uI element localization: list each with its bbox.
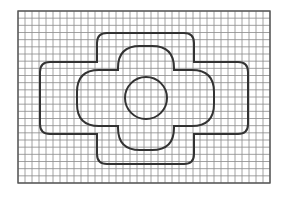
grid-paper: [18, 11, 270, 183]
center-circle: [125, 77, 167, 119]
grid-diagram: [0, 0, 285, 197]
